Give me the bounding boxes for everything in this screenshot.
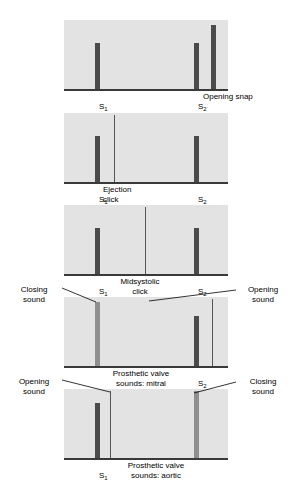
caption-prosthetic-aortic: Prosthetic valve sounds: aortic: [110, 461, 202, 480]
line-midsystolic-click: [145, 207, 146, 274]
leader-line-closing-sound-mitral: [0, 280, 110, 320]
leader-line-closing-sound-aortic: [140, 372, 250, 414]
bar-opening-snap: [211, 25, 216, 89]
leader-line-opening-sound-aortic: [0, 372, 120, 414]
bar-s1: [95, 43, 100, 89]
baseline-panel-3: [64, 274, 228, 276]
line-ejection-click: [114, 115, 115, 182]
bar-s2: [194, 136, 199, 182]
axis-label-s1-panel-5: S1: [90, 461, 108, 483]
leader-line-opening-sound-mitral: [140, 280, 250, 320]
baseline-panel-2: [64, 182, 228, 184]
bar-s2: [194, 316, 199, 366]
bar-s2: [194, 43, 199, 89]
baseline-panel-5: [64, 458, 228, 460]
baseline-panel-4: [64, 366, 228, 368]
panel-opening-snap: [64, 20, 228, 89]
axis-label-opening-snap: Opening snap: [203, 92, 253, 102]
panel-ejection-click: [64, 113, 228, 182]
panel-midsystolic-click: [64, 205, 228, 274]
baseline-panel-1: [64, 89, 228, 91]
bar-s2: [194, 228, 199, 274]
heart-sounds-figure: S1 S2 Opening snap S1 Ejection click S2 …: [0, 0, 291, 483]
bar-s1: [95, 136, 100, 182]
axis-label-ejection-click: Ejection click: [103, 185, 131, 204]
bar-s1: [95, 228, 100, 274]
